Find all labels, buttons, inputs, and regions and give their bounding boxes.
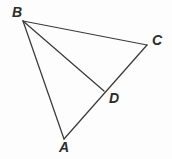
segment-AC xyxy=(64,45,147,139)
vertex-label-b: B xyxy=(12,5,22,19)
segment-BC xyxy=(23,21,147,45)
triangle-diagram-svg xyxy=(0,0,172,159)
vertex-label-c: C xyxy=(152,33,162,47)
geometry-figure: B C D A xyxy=(0,0,172,159)
vertex-label-d: D xyxy=(109,91,119,105)
vertex-label-a: A xyxy=(59,140,69,154)
